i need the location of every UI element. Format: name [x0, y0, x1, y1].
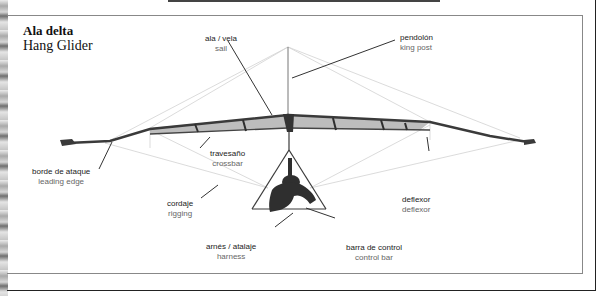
label-harness: arnés / atalaje harness: [206, 242, 256, 262]
label-deflexor: deflexor deflexor: [402, 195, 430, 215]
left-wingtip: [60, 139, 76, 146]
label-crossbar: travesaño crossbar: [210, 149, 245, 169]
pilot-figure: [269, 158, 316, 212]
hang-glider-illustration: [0, 0, 610, 296]
label-king-post: pendolón king post: [400, 33, 433, 53]
label-control-bar: barra de control control bar: [346, 243, 402, 263]
label-rigging: cordaje rigging: [167, 199, 193, 219]
label-sail: ala / vela sail: [205, 34, 237, 54]
leader-lines: [99, 40, 429, 227]
right-wingtip: [524, 139, 536, 145]
label-leading-edge: borde de ataque leading edge: [32, 167, 90, 187]
